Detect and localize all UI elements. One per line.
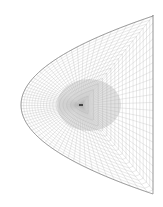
- parabolic-mesh-diagram: [0, 0, 163, 207]
- dense-core: [57, 79, 121, 131]
- center-mark: [79, 104, 83, 106]
